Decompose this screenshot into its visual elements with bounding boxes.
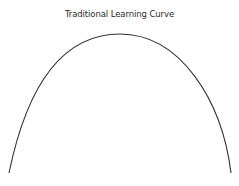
learning-curve-plot [0,0,239,186]
learning-curve-line [9,34,231,173]
